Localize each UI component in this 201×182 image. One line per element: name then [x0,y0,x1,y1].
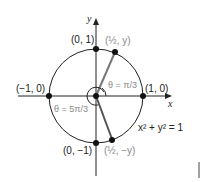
y-axis-label: y [87,13,91,24]
point-left [46,93,52,99]
label-upper: (½, y) [105,35,131,46]
label-right: (1, 0) [145,83,168,94]
label-theta2: θ = 5π/3 [54,104,88,114]
label-bottom: (0, −1) [63,145,92,156]
point-top [93,46,99,52]
y-axis-arrow-icon [93,18,99,25]
point-lower [109,137,115,143]
label-top: (0, 1) [71,34,94,45]
point-upper [112,49,118,55]
x-axis-label: x [168,98,172,109]
label-lower: (½, −y) [104,145,135,156]
label-theta1: θ = π/3 [108,80,137,90]
radius-lower [96,96,112,139]
origin-point [93,93,99,99]
point-bottom [93,140,99,146]
equation-label: x² + y² = 1 [138,122,183,133]
label-left: (−1, 0) [16,83,45,94]
